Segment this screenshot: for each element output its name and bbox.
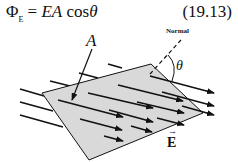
surface-label: A	[86, 31, 96, 51]
vector-arrow-mark: →	[168, 126, 177, 136]
normal-label: Normal	[166, 27, 189, 35]
angle-label: θ	[176, 58, 183, 74]
flux-diagram	[0, 0, 238, 162]
angle-arc	[168, 55, 174, 81]
field-label: →E	[167, 135, 176, 151]
